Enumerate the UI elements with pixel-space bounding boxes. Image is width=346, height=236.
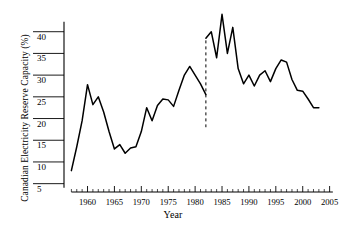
x-tick-label-1960: 1960 [79, 197, 96, 207]
y-tick-label-25: 25 [37, 97, 47, 107]
y-axis: 510152025303540 [33, 22, 64, 194]
y-tick-label-20: 20 [37, 119, 47, 129]
data-series-group [71, 14, 318, 170]
x-tick-label-1970: 1970 [133, 197, 150, 207]
y-tick-label-5: 5 [37, 184, 42, 194]
x-tick-label-1990: 1990 [240, 197, 257, 207]
x-tick-label-2000: 2000 [294, 197, 311, 207]
y-tick-label-15: 15 [37, 140, 47, 150]
y-tick-label-40: 40 [37, 32, 47, 42]
x-tick-label-1985: 1985 [213, 197, 230, 207]
chart-figure: 510152025303540 196019651970197519801985… [0, 0, 346, 236]
y-tick-label-10: 10 [37, 162, 47, 172]
x-tick-label-1995: 1995 [267, 197, 284, 207]
chart-plot-area: 510152025303540 196019651970197519801985… [0, 0, 346, 236]
x-tick-label-1965: 1965 [106, 197, 123, 207]
y-tick-label-30: 30 [37, 75, 47, 85]
x-tick-label-1980: 1980 [187, 197, 204, 207]
x-axis-title: Year [0, 209, 346, 220]
x-axis: 1960196519701975198019851990199520002005 [71, 186, 338, 207]
x-tick-label-1975: 1975 [160, 197, 177, 207]
series-line-0 [71, 66, 206, 170]
y-axis-title: Canadian Electricity Reserve Capacity (%… [17, 0, 33, 236]
series-line-1 [206, 14, 319, 107]
x-tick-label-2005: 2005 [321, 197, 338, 207]
y-tick-label-35: 35 [37, 53, 47, 63]
